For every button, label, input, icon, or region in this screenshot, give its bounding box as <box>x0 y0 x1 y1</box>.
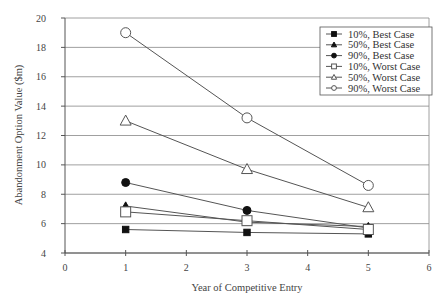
y-axis-title: Abandonment Option Value ($m) <box>13 64 25 205</box>
y-tick-label: 6 <box>41 218 46 229</box>
open-circle-marker <box>242 113 252 123</box>
y-axis-ticks: 468101214161820 <box>36 13 65 259</box>
filled-circle-marker <box>243 206 251 214</box>
legend-label: 90%, Worst Case <box>348 83 421 94</box>
open-triangle-marker <box>120 115 131 125</box>
open-circle-marker <box>363 180 373 190</box>
open-square-marker <box>242 216 252 226</box>
legend-label: 50%, Worst Case <box>348 72 421 83</box>
y-tick-label: 14 <box>36 101 46 112</box>
open-square-marker <box>332 64 337 69</box>
y-tick-label: 4 <box>41 248 46 259</box>
legend-label: 10%, Best Case <box>348 29 415 40</box>
x-tick-label: 4 <box>305 262 310 273</box>
x-axis-title: Year of Competitive Entry <box>191 282 303 293</box>
x-tick-label: 2 <box>184 262 189 273</box>
legend-label: 50%, Best Case <box>348 39 415 50</box>
x-tick-label: 5 <box>366 262 371 273</box>
filled-square-marker <box>122 226 128 232</box>
series-markers <box>122 226 371 237</box>
x-tick-label: 1 <box>123 262 128 273</box>
x-tick-label: 0 <box>63 262 68 273</box>
x-tick-label: 6 <box>427 262 432 273</box>
filled-square-marker <box>332 32 337 37</box>
y-tick-label: 16 <box>36 71 46 82</box>
legend: 10%, Best Case50%, Best Case90%, Best Ca… <box>320 27 432 95</box>
legend-label: 90%, Best Case <box>348 50 415 61</box>
y-tick-label: 8 <box>41 189 46 200</box>
open-circle-marker <box>332 86 337 91</box>
y-tick-label: 20 <box>36 13 46 24</box>
filled-circle-marker <box>122 179 130 187</box>
open-square-marker <box>121 207 131 217</box>
y-tick-label: 18 <box>36 42 46 53</box>
filled-circle-marker <box>332 53 337 58</box>
open-square-marker <box>363 225 373 235</box>
y-tick-label: 10 <box>36 159 46 170</box>
legend-label: 10%, Worst Case <box>348 61 421 72</box>
line-chart: 0123456 468101214161820 Year of Competit… <box>0 0 446 304</box>
open-circle-marker <box>121 28 131 38</box>
x-tick-label: 3 <box>245 262 250 273</box>
y-tick-label: 12 <box>36 130 46 141</box>
filled-square-marker <box>244 229 250 235</box>
